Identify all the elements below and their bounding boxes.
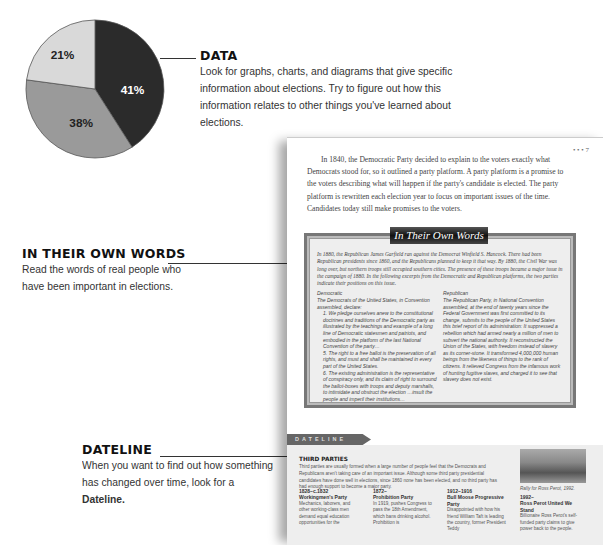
itow-lead: In 1880, the Republican James Garfield r… (317, 251, 563, 287)
entry-text: Disappointed with how his friend William… (447, 507, 509, 533)
slice-label-21: 21% (51, 48, 75, 62)
dateline-body-text: When you want to find out how something … (82, 459, 273, 488)
itow-body: Read the words of real people who have b… (22, 261, 206, 295)
entry-party: Ross Perot United We Stand (520, 500, 582, 513)
itow-heading: IN THEIR OWN WORDS (22, 246, 222, 261)
entry-text: Mechanics, laborers, and other working-c… (299, 501, 361, 527)
dateline-entry: 1872– Prohibition Party In 1919, pushes … (373, 488, 435, 526)
dateline-entry: 1912–1916 Bull Moose Progressive Party D… (447, 488, 509, 533)
democratic-item: 5. The right to a free ballot is the pre… (317, 350, 437, 370)
page-number: • • • 7 (573, 146, 589, 154)
itow-box: In Their Own Words In 1880, the Republic… (304, 233, 576, 408)
dateline-bar: DATELINE (287, 434, 371, 445)
entry-party: Bull Moose Progressive Party (447, 494, 509, 507)
dateline-entry: 1828–c.1832 Workingmen's Party Mechanics… (299, 488, 361, 526)
data-heading: DATA (200, 48, 500, 63)
dateline-heading: DATELINE (82, 442, 282, 457)
itow-callout: IN THEIR OWN WORDS Read the words of rea… (22, 246, 222, 295)
democratic-intro: The Democrats of the United States, in C… (317, 297, 437, 310)
entry-text: Billionaire Ross Perot's self-funded par… (520, 513, 582, 532)
republican-label: Republican (443, 290, 563, 297)
book-page: • • • 7 In 1840, the Democratic Party de… (287, 137, 603, 538)
dateline-body-bold: Dateline. (82, 493, 125, 505)
dateline-title: THIRD PARTIES (299, 456, 348, 462)
dateline-entry: 1992– Ross Perot United We Stand Billion… (520, 494, 582, 532)
republican-text: The Republican Party, in National Conven… (443, 297, 563, 383)
democratic-item: 1. We pledge ourselves anew to the const… (317, 310, 437, 350)
republican-column: Republican The Republican Party, in Nati… (443, 290, 563, 402)
perot-rally-photo (520, 449, 586, 483)
data-body: Look for graphs, charts, and diagrams th… (200, 63, 494, 131)
data-callout: DATA Look for graphs, charts, and diagra… (200, 48, 500, 131)
dateline-body: When you want to find out how something … (82, 457, 275, 508)
dateline-callout: DATELINE When you want to find out how s… (82, 442, 282, 508)
page-intro-paragraph: In 1840, the Democratic Party decided to… (307, 154, 569, 215)
democratic-item: 6. The existing administration is the re… (317, 370, 437, 403)
slice-label-38: 38% (69, 116, 93, 130)
pie-chart: 41% 38% 21% (24, 18, 166, 160)
democratic-column: Democratic The Democrats of the United S… (317, 290, 437, 402)
itow-banner: In Their Own Words (390, 227, 488, 244)
data-leader-line (160, 58, 196, 59)
democratic-label: Democratic (317, 290, 437, 297)
photo-caption: Rally for Ross Perot, 1992. (520, 486, 575, 491)
entry-text: In 1919, pushes Congress to pass the 18t… (373, 501, 435, 527)
slice-label-41: 41% (121, 83, 145, 97)
